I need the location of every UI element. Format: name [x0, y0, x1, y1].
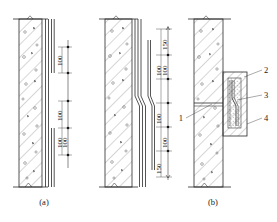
panel-b-middle-rebar [135, 19, 155, 187]
panel-a: 100 100 100 100 (a) [13, 16, 72, 207]
panel-a-rebar [46, 19, 55, 187]
panel-b-middle-dim-6: 150 [155, 163, 163, 174]
engineering-drawing-figure: 100 100 100 100 (a) [0, 0, 277, 222]
panel-a-dim-2: 100 [56, 110, 64, 121]
panel-b-middle-dim-5: 100 [161, 137, 169, 148]
panel-a-wall [13, 16, 48, 187]
panel-a-dimension-chain: 100 100 100 100 [56, 40, 73, 168]
panel-b-caption: (b) [208, 197, 218, 207]
panel-b-middle: 150 100 100 100 100 150 [99, 16, 172, 187]
panel-b-middle-dim-1: 150 [161, 39, 169, 50]
callout-number-2: 2 [264, 65, 268, 75]
panel-b-middle-dim-4: 100 [155, 113, 163, 124]
panel-a-dim-1: 100 [56, 55, 64, 66]
panel-b-middle-wall [99, 16, 138, 187]
panel-b-detail-box [223, 72, 247, 136]
callout-number-3: 3 [264, 90, 268, 100]
panel-b-middle-dim-3: 100 [161, 65, 169, 76]
panel-a-dim-4: 100 [61, 137, 69, 148]
panel-b: 1 2 3 4 (b) [179, 16, 269, 207]
panel-b-middle-dimension-chain: 150 100 100 100 100 150 [155, 26, 173, 180]
callout-number-4: 4 [264, 113, 269, 123]
panel-a-caption: (a) [39, 197, 49, 207]
callout-number-1: 1 [179, 113, 183, 123]
